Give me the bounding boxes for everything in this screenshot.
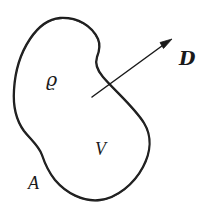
label-volume-v: V bbox=[95, 140, 106, 158]
label-charge-density-rho: ϱ bbox=[46, 70, 57, 89]
figure-canvas: ϱ V A D bbox=[0, 0, 212, 206]
label-displacement-vector-d: D bbox=[179, 49, 196, 68]
label-surface-a: A bbox=[28, 174, 39, 192]
